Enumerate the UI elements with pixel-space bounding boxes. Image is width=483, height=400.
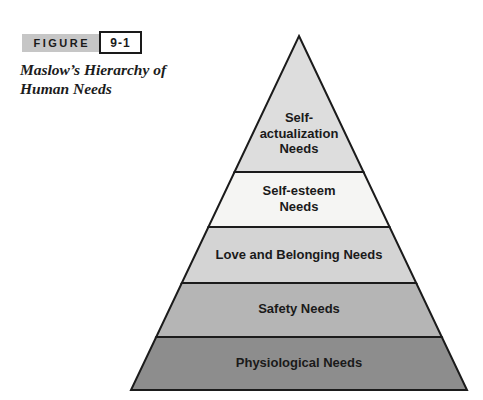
pyramid-level-4-label: Safety Needs — [149, 301, 449, 317]
pyramid-level-3-label: Love and Belonging Needs — [149, 247, 449, 263]
pyramid-level-1-label: Self- actualization Needs — [149, 110, 449, 157]
figure-panel: FIGURE 9-1 Maslow’s Hierarchy of Human N… — [0, 0, 483, 400]
pyramid-level-2-label: Self-esteem Needs — [149, 183, 449, 214]
pyramid-level-5-label: Physiological Needs — [149, 355, 449, 371]
